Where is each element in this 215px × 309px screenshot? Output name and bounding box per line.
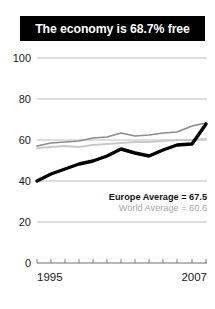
legend-world-average: World Average = 60.6: [119, 203, 207, 213]
y-tick-20: 20: [19, 216, 31, 228]
chart-plot-area: 100 80 60 40 20 0: [0, 0, 215, 309]
y-tick-80: 80: [19, 93, 31, 105]
y-tick-40: 40: [19, 175, 31, 187]
y-tick-0: 0: [25, 257, 31, 269]
y-tick-100: 100: [13, 52, 31, 64]
x-label-start: 1995: [37, 271, 63, 283]
y-tick-60: 60: [19, 134, 31, 146]
x-label-end: 2007: [181, 271, 207, 283]
chart-legend: Europe Average = 67.5 World Average = 60…: [109, 192, 207, 213]
economic-freedom-chart: The economy is 68.7% free 100 80 60 40 2…: [0, 0, 215, 309]
y-axis-labels: 100 80 60 40 20 0: [13, 52, 31, 269]
x-axis-ticks: [37, 259, 206, 263]
legend-europe-average: Europe Average = 67.5: [109, 192, 207, 202]
